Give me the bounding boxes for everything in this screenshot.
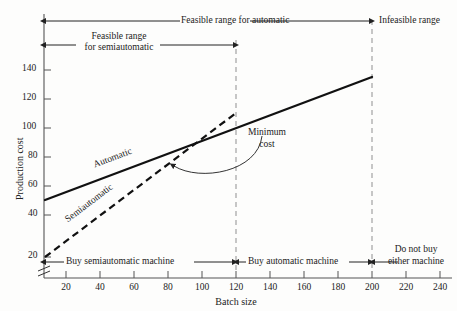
annotation-minimum-cost-line2: cost <box>240 139 294 149</box>
y-tick-label-40: 40 <box>28 208 38 218</box>
x-tick-label-80: 80 <box>158 282 178 292</box>
y-axis-title: Production cost <box>14 138 25 201</box>
x-tick-label-120: 120 <box>226 282 246 292</box>
annotation-do-not-buy-line2: either machine <box>379 256 453 266</box>
x-tick-label-220: 220 <box>396 282 416 292</box>
x-tick-label-100: 100 <box>192 282 212 292</box>
annotation-feasible-range-automatic: Feasible range for automatic <box>181 15 289 25</box>
y-tick-label-100: 100 <box>22 121 36 131</box>
series-automatic <box>45 77 372 200</box>
x-tick-label-180: 180 <box>328 282 348 292</box>
x-tick-label-200: 200 <box>362 282 382 292</box>
x-tick-label-140: 140 <box>260 282 280 292</box>
y-tick-label-120: 120 <box>22 92 36 102</box>
annotation-buy-automatic-machine: Buy automatic machine <box>248 256 338 266</box>
x-tick-label-60: 60 <box>124 282 144 292</box>
x-tick-label-20: 20 <box>56 282 76 292</box>
annotation-do-not-buy-line1: Do not buy <box>379 244 453 254</box>
annotation-minimum-cost-line1: Minimum <box>240 127 294 137</box>
annotation-buy-semiautomatic-machine: Buy semiautomatic machine <box>66 256 174 266</box>
y-tick-label-20: 20 <box>28 250 38 260</box>
x-axis-ticks <box>66 271 440 278</box>
y-tick-label-80: 80 <box>28 150 38 160</box>
y-tick-label-140: 140 <box>22 63 36 73</box>
x-tick-label-240: 240 <box>430 282 450 292</box>
y-axis-ticks <box>44 70 51 257</box>
x-tick-label-40: 40 <box>90 282 110 292</box>
series-semiautomatic <box>45 113 236 257</box>
x-tick-label-160: 160 <box>294 282 314 292</box>
annotation-infeasible-range: Infeasible range <box>379 15 440 25</box>
annotation-feasible-range-semiautomatic-line1: Feasible range <box>77 31 161 41</box>
y-tick-label-60: 60 <box>28 179 38 189</box>
annotation-feasible-range-semiautomatic-line2: for semiautomatic <box>73 42 165 52</box>
x-axis-title: Batch size <box>196 296 276 307</box>
